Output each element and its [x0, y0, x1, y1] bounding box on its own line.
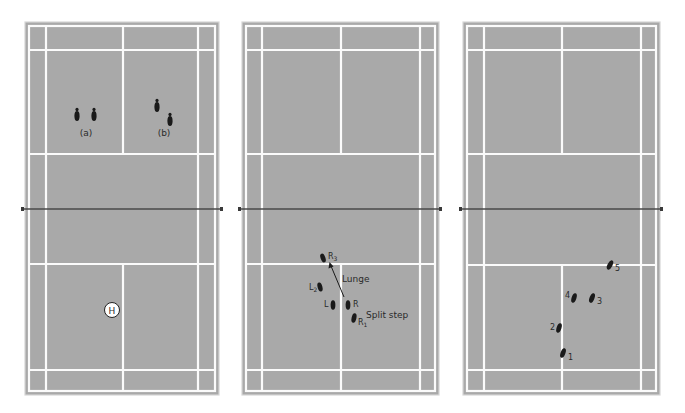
home-base-label: H [109, 306, 116, 316]
step-3-label: 3 [597, 297, 602, 306]
footprint-icon [346, 300, 351, 310]
net-post-left [459, 207, 462, 211]
footprint-heel-icon [155, 99, 158, 103]
label-l: L [324, 300, 329, 309]
stance-b-label: (b) [158, 128, 171, 138]
split-step-label: Split step [366, 310, 409, 320]
label-r: R [353, 300, 359, 309]
net-post-left [238, 207, 241, 211]
net-post-left [21, 207, 24, 211]
footprint-icon [167, 116, 172, 126]
footprint-heel-icon [92, 108, 95, 112]
net-post-right [220, 207, 223, 211]
step-1-label: 1 [568, 353, 573, 362]
footprint-icon [91, 111, 96, 121]
footprint-r [346, 300, 351, 310]
lunge-label: Lunge [342, 274, 370, 284]
badminton-footwork-diagram: (a) (b) H R3 [0, 0, 685, 413]
footprint-icon [74, 111, 79, 121]
court-panel-1: (a) (b) H [21, 22, 223, 395]
footprint-icon [154, 102, 159, 112]
footprint-icon [331, 300, 336, 310]
step-2-label: 2 [550, 323, 555, 332]
step-5-label: 5 [615, 264, 620, 273]
net-post-right [660, 207, 663, 211]
court-panel-3: 1 2 4 3 5 [459, 22, 663, 395]
footprint-l [331, 300, 336, 310]
net-post-right [439, 207, 442, 211]
footprint-heel-icon [168, 113, 171, 117]
court-panel-2: R3 L2 L R R1 Lunge Split step [238, 22, 442, 395]
stance-a-label: (a) [80, 128, 93, 138]
step-4-label: 4 [565, 291, 570, 300]
footprint-heel-icon [75, 108, 78, 112]
